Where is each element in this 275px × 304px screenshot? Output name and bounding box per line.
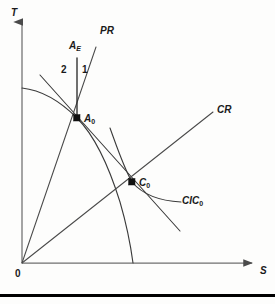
x-axis-label: S: [260, 266, 267, 276]
point-label-c0: C0: [139, 178, 150, 188]
point-label-a0: A0: [84, 114, 95, 124]
indifference-curve-label-sub: 0: [199, 200, 203, 207]
point-marker-a0: [74, 115, 80, 121]
figure-canvas: T S 0 AE PR 2 1 A0 CR C0 CIC0: [0, 0, 275, 304]
absorption-line-label-sub: E: [76, 45, 81, 52]
production-ray: [22, 47, 96, 263]
point-label-c0-sub: 0: [146, 182, 150, 189]
price-line: [40, 75, 180, 231]
y-axis-label: T: [11, 8, 17, 18]
production-ray-label: PR: [100, 26, 114, 36]
origin-label: 0: [15, 269, 21, 279]
point-label-a0-sub: 0: [91, 118, 95, 125]
economics-diagram-svg: [0, 0, 275, 304]
consumption-ray: [22, 112, 213, 263]
absorption-line-label: AE: [69, 41, 81, 51]
region-label-1: 1: [82, 65, 88, 75]
indifference-curve-label: CIC0: [182, 196, 203, 206]
footer-divider: [0, 294, 275, 297]
consumption-ray-label: CR: [217, 105, 231, 115]
indifference-curve-label-base: CIC: [182, 195, 199, 206]
point-marker-c0: [129, 179, 135, 185]
region-label-2: 2: [61, 65, 67, 75]
